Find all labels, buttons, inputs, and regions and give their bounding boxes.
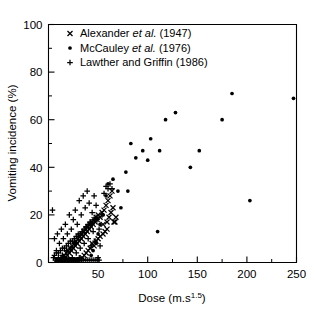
x-tick-label: 200 [237, 268, 256, 280]
x-tick-label: 100 [138, 268, 157, 280]
y-tick-label: 60 [30, 114, 43, 126]
legend-entry-0: Alexander et al. (1947) [68, 27, 192, 39]
legend-entry-1: McCauley et al. (1976) [68, 42, 191, 54]
svg-text:Vomiting incidence (%): Vomiting incidence (%) [6, 84, 18, 201]
x-tick-label: 50 [92, 268, 105, 280]
legend-label: McCauley et al. (1976) [80, 42, 191, 54]
x-tick-label: 250 [287, 268, 306, 280]
y-tick-label: 100 [23, 19, 42, 31]
y-tick-label: 0 [36, 257, 42, 269]
chart-canvas: 50100150200250 020406080100 Alexander et… [0, 0, 315, 316]
legend-label: Alexander et al. (1947) [80, 27, 191, 39]
chart-legend: Alexander et al. (1947)McCauley et al. (… [67, 27, 207, 68]
y-tick-label: 80 [30, 66, 43, 78]
legend-entry-2: Lawther and Griffin (1986) [67, 56, 207, 68]
scatter-chart-figure: 50100150200250 020406080100 Alexander et… [0, 0, 315, 316]
y-axis-title: Vomiting incidence (%) [6, 84, 18, 201]
legend-label: Lawther and Griffin (1986) [80, 56, 208, 68]
y-tick-label: 20 [30, 209, 43, 221]
x-tick-label: 150 [188, 268, 207, 280]
y-tick-label: 40 [30, 162, 43, 174]
